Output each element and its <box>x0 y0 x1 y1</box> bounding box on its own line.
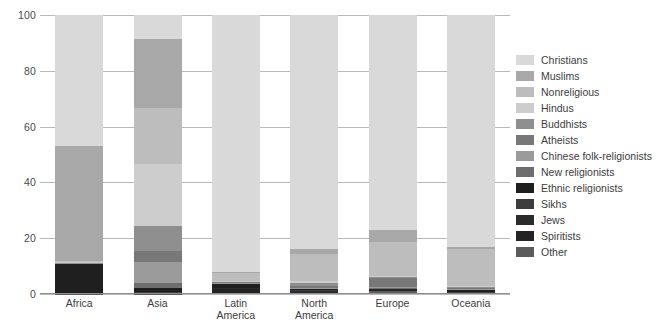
x-tick-label: Africa <box>36 297 122 309</box>
bar-segment <box>447 287 495 288</box>
y-tick-label: 60 <box>4 121 36 133</box>
legend-swatch-icon <box>516 87 534 97</box>
legend-label: Buddhists <box>541 119 587 129</box>
legend-swatch-icon <box>516 71 534 81</box>
x-tick-label: Asia <box>115 297 201 309</box>
legend-label: Muslims <box>541 71 580 81</box>
bar-segment <box>55 15 103 146</box>
legend-label: Other <box>541 247 567 257</box>
stacked-bar[interactable] <box>290 15 338 294</box>
bar-segment <box>212 282 260 283</box>
y-tick-label: 20 <box>4 232 36 244</box>
bar-segment <box>447 289 495 290</box>
y-axis-labels: 020406080100 <box>0 15 36 294</box>
bar-segment <box>369 288 417 289</box>
bar-segment <box>369 276 417 277</box>
legend-item[interactable]: New religionists <box>516 164 661 180</box>
y-tick-label: 100 <box>4 9 36 21</box>
x-tick-label: NorthAmerica <box>271 297 357 321</box>
legend-item[interactable]: Sikhs <box>516 196 661 212</box>
gridline <box>40 294 510 295</box>
bar-segment <box>447 15 495 247</box>
bar-segment <box>212 281 260 282</box>
bar-segment <box>212 15 260 272</box>
legend-label: Nonreligious <box>541 87 599 97</box>
bar-segment <box>134 283 182 288</box>
bar-segment <box>369 242 417 275</box>
bar-segment <box>290 288 338 289</box>
bar-segment <box>447 249 495 285</box>
bar-segment <box>290 290 338 291</box>
bar-segment <box>447 288 495 289</box>
legend-item[interactable]: Muslims <box>516 68 661 84</box>
bar-segment <box>134 262 182 283</box>
legend-swatch-icon <box>516 103 534 113</box>
bar-segment <box>134 39 182 109</box>
bar-segment <box>290 249 338 253</box>
legend-item[interactable]: Buddhists <box>516 116 661 132</box>
legend-item[interactable]: Spiritists <box>516 228 661 244</box>
legend-item[interactable]: Ethnic religionists <box>516 180 661 196</box>
legend-label: Chinese folk-religionists <box>541 151 652 161</box>
legend-swatch-icon <box>516 215 534 225</box>
bar-segment <box>212 281 260 282</box>
legend-label: Ethnic religionists <box>541 183 623 193</box>
legend-swatch-icon <box>516 167 534 177</box>
bar-segment <box>369 15 417 230</box>
bar-segment <box>212 272 260 273</box>
stacked-bar[interactable] <box>369 15 417 294</box>
legend-swatch-icon <box>516 135 534 145</box>
legend-label: New religionists <box>541 167 615 177</box>
legend-item[interactable]: Jews <box>516 212 661 228</box>
bar-segment <box>134 251 182 262</box>
legend-item[interactable]: Christians <box>516 52 661 68</box>
legend-label: Atheists <box>541 135 578 145</box>
legend-item[interactable]: Nonreligious <box>516 84 661 100</box>
stacked-bar[interactable] <box>55 15 103 294</box>
stacked-bar[interactable] <box>134 15 182 294</box>
bar-segment <box>55 262 103 263</box>
bar-segment <box>447 289 495 290</box>
y-tick-label: 40 <box>4 176 36 188</box>
bar-segment <box>134 15 182 39</box>
x-axis-line <box>40 293 510 294</box>
bar-segment <box>134 226 182 251</box>
chart-legend: ChristiansMuslimsNonreligiousHindusBuddh… <box>516 52 661 260</box>
legend-swatch-icon <box>516 119 534 129</box>
legend-item[interactable]: Hindus <box>516 100 661 116</box>
x-tick-label: Oceania <box>428 297 514 309</box>
y-tick-label: 0 <box>4 288 36 300</box>
bar-segment <box>134 164 182 225</box>
bar-segment <box>369 230 417 243</box>
x-axis-labels: AfricaAsiaLatinAmericaNorthAmericaEurope… <box>40 297 510 330</box>
bar-segment <box>290 15 338 249</box>
plot-area <box>40 15 510 294</box>
legend-label: Christians <box>541 55 588 65</box>
bar-segment <box>212 273 260 281</box>
bar-segment <box>134 108 182 164</box>
bar-segment <box>290 288 338 289</box>
bar-segment <box>55 146 103 260</box>
bar-segment <box>447 247 495 250</box>
stacked-bar[interactable] <box>212 15 260 294</box>
bar-segment <box>369 277 417 278</box>
bar-segment <box>55 261 103 262</box>
bar-segment <box>447 290 495 292</box>
legend-label: Spiritists <box>541 231 581 241</box>
bar-segment <box>212 283 260 287</box>
stacked-bar[interactable] <box>447 15 495 294</box>
y-tick-label: 80 <box>4 65 36 77</box>
legend-swatch-icon <box>516 247 534 257</box>
bar-segment <box>134 288 182 292</box>
bar-segment <box>290 281 338 283</box>
legend-swatch-icon <box>516 199 534 209</box>
legend-item[interactable]: Chinese folk-religionists <box>516 148 661 164</box>
legend-item[interactable]: Atheists <box>516 132 661 148</box>
legend-item[interactable]: Other <box>516 244 661 260</box>
bar-segment <box>447 286 495 287</box>
bar-segment <box>212 288 260 292</box>
x-tick-label: Europe <box>350 297 436 309</box>
bar-segment <box>290 283 338 286</box>
bar-segment <box>369 288 417 289</box>
x-tick-label: LatinAmerica <box>193 297 279 321</box>
